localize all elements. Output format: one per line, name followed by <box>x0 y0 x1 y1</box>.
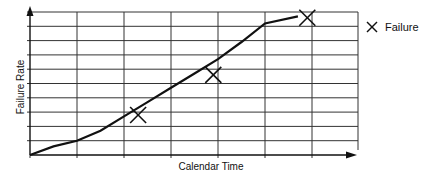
y-axis-arrow-icon <box>27 6 34 16</box>
grid-lines <box>27 12 358 158</box>
x-axis-label: Calendar Time <box>178 161 243 172</box>
legend-label-failure: Failure <box>385 21 419 33</box>
y-axis-label: Failure Rate <box>15 59 26 114</box>
failure-rate-curve <box>30 16 298 155</box>
axes <box>27 6 358 159</box>
legend-x-marker-icon <box>367 22 377 32</box>
x-axis-arrow-icon <box>346 152 357 159</box>
failure-x-marker-icon <box>130 107 146 123</box>
legend: Failure <box>367 21 419 33</box>
failure-rate-chart: Calendar Time Failure Rate Failure <box>0 0 429 178</box>
